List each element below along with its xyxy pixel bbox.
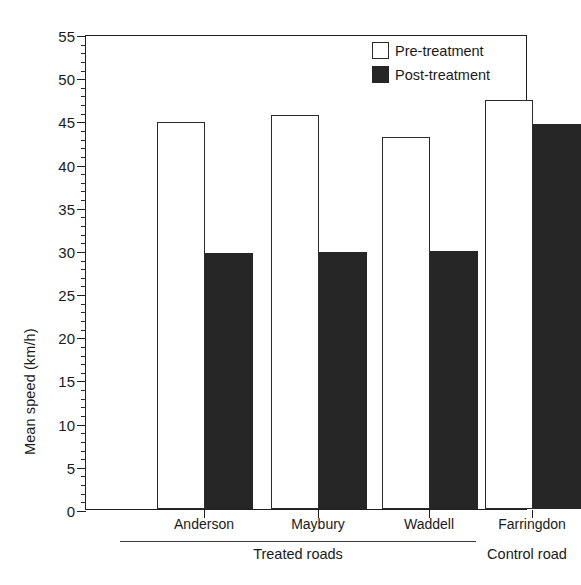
plot-area: 0510152025303540455055 xyxy=(85,35,527,510)
y-axis-tick-minor xyxy=(81,433,86,434)
y-axis-tick-label: 50 xyxy=(58,72,75,87)
legend-item-post-treatment: Post-treatment xyxy=(372,66,490,83)
y-axis-tick-minor xyxy=(81,191,86,192)
y-axis-tick-minor xyxy=(81,416,86,417)
bar-waddell-post-treatment xyxy=(430,251,478,509)
y-axis-tick-minor xyxy=(81,390,86,391)
x-axis-label-anderson: Anderson xyxy=(174,516,234,532)
y-axis-tick-minor xyxy=(81,373,86,374)
x-axis-label-farringdon: Farringdon xyxy=(498,516,566,532)
y-axis-tick-minor xyxy=(81,278,86,279)
y-axis-tick-minor xyxy=(81,226,86,227)
bar-maybury-pre-treatment xyxy=(271,115,319,509)
y-axis-tick-label: 45 xyxy=(58,115,75,130)
group-label-treated-roads: Treated roads xyxy=(253,546,343,562)
y-axis-tick-minor xyxy=(81,502,86,503)
y-axis-title: Mean speed (km/h) xyxy=(22,155,38,455)
y-axis-tick-minor xyxy=(81,157,86,158)
y-axis-tick-label: 10 xyxy=(58,417,75,432)
y-axis-tick-label: 25 xyxy=(58,288,75,303)
bar-farringdon-post-treatment xyxy=(533,124,581,509)
y-axis-tick-label: 40 xyxy=(58,158,75,173)
y-axis-tick-minor xyxy=(81,451,86,452)
y-axis-tick-minor xyxy=(81,114,86,115)
bar-anderson-pre-treatment xyxy=(157,122,205,509)
y-axis-tick-minor xyxy=(81,304,86,305)
y-axis-tick-major xyxy=(77,468,86,469)
y-axis-tick-minor xyxy=(81,96,86,97)
y-axis-tick-minor xyxy=(81,407,86,408)
y-axis-tick-minor xyxy=(81,45,86,46)
y-axis-tick-minor xyxy=(81,200,86,201)
y-axis-tick-label: 30 xyxy=(58,244,75,259)
y-axis-tick-major xyxy=(77,122,86,123)
legend-label-post-treatment: Post-treatment xyxy=(395,67,490,83)
legend-label-pre-treatment: Pre-treatment xyxy=(395,43,484,59)
y-axis-tick-minor xyxy=(81,494,86,495)
y-axis-tick-label: 5 xyxy=(67,460,75,475)
y-axis-tick-minor xyxy=(81,235,86,236)
y-axis-tick-minor xyxy=(81,62,86,63)
y-axis-tick-minor xyxy=(81,243,86,244)
y-axis-tick-major xyxy=(77,338,86,339)
legend-swatch-pre-treatment-icon xyxy=(372,42,389,59)
group-label-control-road: Control road xyxy=(487,546,567,562)
y-axis-tick-minor xyxy=(81,261,86,262)
y-axis-tick-major xyxy=(77,511,86,512)
y-axis-tick-minor xyxy=(81,347,86,348)
y-axis-tick-minor xyxy=(81,131,86,132)
group-underline-treated-roads xyxy=(120,541,476,542)
y-axis-tick-major xyxy=(77,381,86,382)
bar-maybury-post-treatment xyxy=(319,252,367,509)
y-axis-tick-major xyxy=(77,425,86,426)
x-axis-label-maybury: Maybury xyxy=(291,516,345,532)
y-axis-tick-minor xyxy=(81,140,86,141)
y-axis-tick-minor xyxy=(81,330,86,331)
y-axis-tick-minor xyxy=(81,71,86,72)
legend-item-pre-treatment: Pre-treatment xyxy=(372,42,490,59)
y-axis-tick-minor xyxy=(81,269,86,270)
y-axis-tick-minor xyxy=(81,105,86,106)
bars-layer xyxy=(86,36,526,509)
y-axis-tick-minor xyxy=(81,217,86,218)
y-axis-tick-major xyxy=(77,252,86,253)
y-axis-tick-minor xyxy=(81,485,86,486)
legend: Pre-treatment Post-treatment xyxy=(372,42,490,83)
y-axis-tick-minor xyxy=(81,476,86,477)
bar-farringdon-pre-treatment xyxy=(485,100,533,509)
y-axis-tick-major xyxy=(77,209,86,210)
y-axis-tick-minor xyxy=(81,88,86,89)
y-axis-tick-minor xyxy=(81,312,86,313)
y-axis-tick-label: 15 xyxy=(58,374,75,389)
y-axis-tick-major xyxy=(77,166,86,167)
y-axis-tick-minor xyxy=(81,286,86,287)
y-axis-tick-minor xyxy=(81,148,86,149)
y-axis-tick-label: 35 xyxy=(58,201,75,216)
y-axis-tick-minor xyxy=(81,399,86,400)
y-axis-tick-minor xyxy=(81,364,86,365)
y-axis-tick-label: 55 xyxy=(58,29,75,44)
y-axis-tick-minor xyxy=(81,174,86,175)
x-axis-label-waddell: Waddell xyxy=(404,516,454,532)
y-axis-tick-minor xyxy=(81,321,86,322)
y-axis-tick-major xyxy=(77,295,86,296)
y-axis-tick-minor xyxy=(81,459,86,460)
legend-swatch-post-treatment-icon xyxy=(372,66,389,83)
y-axis-tick-major xyxy=(77,79,86,80)
y-axis-tick-minor xyxy=(81,183,86,184)
y-axis-tick-minor xyxy=(81,442,86,443)
y-axis-tick-minor xyxy=(81,53,86,54)
y-axis-tick-label: 0 xyxy=(67,504,75,519)
y-axis-tick-label: 20 xyxy=(58,331,75,346)
y-axis-tick-minor xyxy=(81,356,86,357)
y-axis-tick-major xyxy=(77,36,86,37)
bar-waddell-pre-treatment xyxy=(382,137,430,509)
bar-anderson-post-treatment xyxy=(205,253,253,509)
